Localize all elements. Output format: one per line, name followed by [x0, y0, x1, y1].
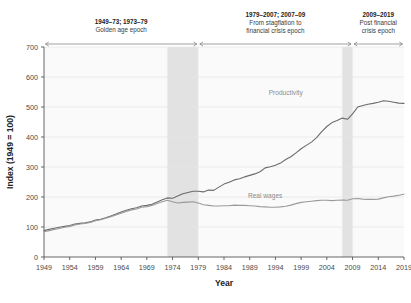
y-tick-label-600: 600 — [26, 73, 38, 82]
x-tick-label-1994: 1994 — [267, 263, 283, 272]
x-tick-label-2004: 2004 — [319, 263, 335, 272]
epoch-range-label: 2009–2019 — [363, 11, 395, 18]
y-tick-label-400: 400 — [26, 133, 38, 142]
x-tick-label-1959: 1959 — [87, 263, 103, 272]
x-tick-label-1989: 1989 — [242, 263, 258, 272]
chart-container: 0100200300400500600700194919541959196419… — [0, 0, 411, 303]
x-tick-label-1969: 1969 — [139, 263, 155, 272]
y-tick-label-0: 0 — [34, 253, 38, 262]
epoch-desc-line2: financial crisis epoch — [246, 27, 305, 35]
x-tick-label-1964: 1964 — [113, 263, 129, 272]
epoch-annotation-golden-age: 1949–73; 1973–79Golden age epoch — [46, 18, 197, 46]
y-tick-label-200: 200 — [26, 193, 38, 202]
y-axis-title: Index (1949 = 100) — [5, 115, 15, 189]
epoch-range-label: 1979–2007; 2007–09 — [245, 11, 305, 19]
x-tick-label-1974: 1974 — [165, 263, 181, 272]
x-tick-label-2014: 2014 — [370, 263, 386, 272]
series-label-productivity: Productivity — [269, 89, 304, 97]
series-label-real-wages: Real wages — [248, 192, 283, 200]
shaded-band-1 — [342, 47, 352, 257]
x-tick-label-1954: 1954 — [62, 263, 78, 272]
epoch-desc-line1: Golden age epoch — [95, 26, 147, 34]
productivity-vs-real-wages-chart: 0100200300400500600700194919541959196419… — [0, 0, 411, 303]
epoch-desc-line2: crisis epoch — [362, 27, 396, 35]
x-tick-label-2019: 2019 — [396, 263, 411, 272]
epoch-range-label: 1949–73; 1973–79 — [95, 18, 148, 26]
shaded-band-0 — [167, 47, 198, 257]
y-tick-label-100: 100 — [26, 223, 38, 232]
epoch-desc-line1: From stagflation to — [249, 19, 302, 27]
y-tick-label-700: 700 — [26, 43, 38, 52]
y-tick-label-300: 300 — [26, 163, 38, 172]
x-tick-label-2009: 2009 — [345, 263, 361, 272]
x-tick-label-1979: 1979 — [190, 263, 206, 272]
epoch-annotation-post-crisis: 2009–2019Post financialcrisis epoch — [354, 11, 402, 46]
y-tick-label-500: 500 — [26, 103, 38, 112]
x-tick-label-1949: 1949 — [36, 263, 52, 272]
x-tick-label-1999: 1999 — [293, 263, 309, 272]
x-tick-label-1984: 1984 — [216, 263, 232, 272]
epoch-desc-line1: Post financial — [360, 19, 397, 26]
x-axis-title: Year — [215, 278, 234, 288]
epoch-annotation-stagflation: 1979–2007; 2007–09From stagflation tofin… — [200, 11, 351, 46]
